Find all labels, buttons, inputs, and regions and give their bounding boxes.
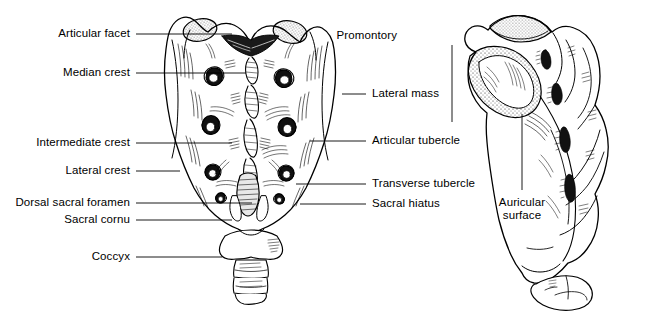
label-sacral-hiatus: Sacral hiatus	[372, 197, 440, 210]
label-sacral-cornu: Sacral cornu	[64, 213, 130, 226]
label-lateral-crest: Lateral crest	[65, 164, 130, 177]
label-promontory: Promontory	[337, 29, 397, 42]
label-coccyx: Coccyx	[92, 250, 130, 263]
dorsal-sacrum-drawing	[165, 16, 336, 305]
label-dorsal-sacral-foramen: Dorsal sacral foramen	[15, 196, 130, 209]
label-transverse-tubercle: Transverse tubercle	[372, 177, 475, 190]
anatomy-illustration	[0, 0, 650, 320]
lateral-sacrum-drawing	[465, 15, 608, 310]
anatomy-figure: Articular facetMedian crestIntermediate …	[0, 0, 650, 320]
label-lateral-mass: Lateral mass	[372, 87, 439, 100]
label-articular-facet: Articular facet	[58, 27, 130, 40]
label-auricular-surface: Auricularsurface	[499, 196, 545, 222]
label-articular-tubercle: Articular tubercle	[372, 134, 460, 147]
coccyx	[219, 230, 282, 304]
label-intermediate-crest: Intermediate crest	[36, 136, 130, 149]
label-median-crest: Median crest	[63, 66, 130, 79]
